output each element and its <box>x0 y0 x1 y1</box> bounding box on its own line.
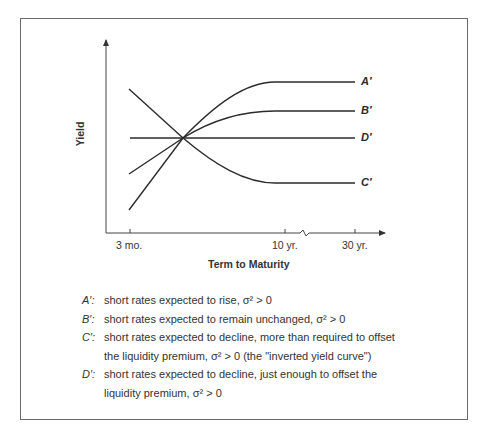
curve-c <box>129 89 355 183</box>
legend-item-c-continued: the liquidity premium, σ² > 0 (the "inve… <box>82 347 462 366</box>
legend-key: A′: <box>82 291 104 310</box>
curve-label-d: D′ <box>361 131 372 143</box>
legend-text: short rates expected to decline, more th… <box>104 328 462 347</box>
legend: A′: short rates expected to rise, σ² > 0… <box>82 291 462 403</box>
tick-label-3mo: 3 mo. <box>116 239 142 251</box>
legend-key: C′: <box>82 328 104 347</box>
x-axis <box>106 229 385 236</box>
y-axis-title: Yield <box>74 122 86 147</box>
tick-label-30yr: 30 yr. <box>342 239 368 251</box>
tick-label-10yr: 10 yr. <box>272 239 298 251</box>
legend-item-a: A′: short rates expected to rise, σ² > 0 <box>82 291 462 310</box>
legend-item-d-continued: liquidity premium, σ² > 0 <box>82 384 462 403</box>
legend-item-d: D′: short rates expected to decline, jus… <box>82 365 462 384</box>
legend-text: short rates expected to rise, σ² > 0 <box>104 291 462 310</box>
curve-label-b: B′ <box>361 104 372 116</box>
legend-text: short rates expected to remain unchanged… <box>104 310 462 329</box>
legend-key: D′: <box>82 365 104 384</box>
curve-label-c: C′ <box>361 176 372 188</box>
curve-label-a: A′ <box>361 75 372 87</box>
legend-item-b: B′: short rates expected to remain uncha… <box>82 310 462 329</box>
legend-item-c: C′: short rates expected to decline, mor… <box>82 328 462 347</box>
curve-a <box>129 82 355 210</box>
x-axis-title: Term to Maturity <box>208 258 289 270</box>
legend-text: short rates expected to decline, just en… <box>104 365 462 384</box>
legend-key: B′: <box>82 310 104 329</box>
